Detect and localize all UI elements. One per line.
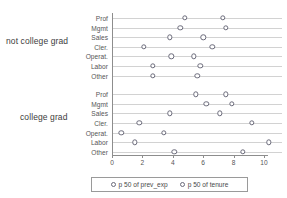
row-gridline [112,104,282,105]
data-point-marker [240,149,245,154]
y-axis-label-mgmt: Mgmt [64,100,108,107]
x-axis-tick-label: 4 [171,159,175,166]
data-point-marker [229,101,234,106]
x-axis-tick [142,155,143,158]
y-axis-label-other: Other [64,148,108,155]
legend-label-prev-exp: p 50 of prev_exp [119,181,168,188]
x-axis-tick-label: 6 [201,159,205,166]
data-point-marker [118,130,123,135]
x-axis-tick-label: 2 [141,159,145,166]
y-axis-label-other: Other [64,72,108,79]
data-point-marker [167,111,172,116]
row-gridline [112,142,282,143]
y-axis-label-operat: Operat. [64,53,108,60]
x-axis-tick-label: 10 [260,159,267,166]
data-point-marker [197,63,202,68]
y-axis-label-prof: Prof [64,91,108,98]
data-point-marker [266,139,271,144]
data-point-marker [223,25,228,30]
data-point-marker [193,91,198,96]
y-axis-category-labels: ProfMgmtSalesCler.Operat.LaborOtherProfM… [60,0,108,198]
data-point-marker [191,54,196,59]
data-point-marker [141,44,146,49]
row-gridline [112,56,282,57]
data-point-marker [150,73,155,78]
y-axis-line [112,13,113,155]
x-axis-tick [173,155,174,158]
data-point-marker [249,120,254,125]
row-gridline [112,133,282,134]
row-gridline [112,18,282,19]
data-point-marker [182,15,187,20]
legend-entry-prev-exp[interactable]: p 50 of prev_exp [111,181,168,188]
y-axis-label-operat: Operat. [64,129,108,136]
data-point-marker [200,34,205,39]
y-axis-label-sales: Sales [64,110,108,117]
x-axis-tick [203,155,204,158]
y-axis-label-cler: Cler. [64,120,108,127]
data-point-marker [194,73,199,78]
row-gridline [112,113,282,114]
data-point-marker [217,111,222,116]
row-gridline [112,37,282,38]
data-point-marker [137,120,142,125]
x-axis-tick [264,155,265,158]
data-point-marker [172,149,177,154]
legend-label-tenure: p 50 of tenure [188,181,229,188]
x-axis-line [112,155,268,156]
row-gridline [112,28,282,29]
data-point-marker [167,34,172,39]
open-circle-icon [111,182,116,187]
group-label-not-college-grad: not college grad [6,36,68,46]
row-gridline [112,47,282,48]
data-point-marker [161,130,166,135]
y-axis-label-labor: Labor [64,63,108,70]
data-point-marker [210,44,215,49]
row-gridline [112,152,282,153]
plot-area [112,14,282,152]
x-axis-tick-label: 8 [232,159,236,166]
data-point-marker [204,101,209,106]
data-point-marker [220,15,225,20]
legend-entry-tenure[interactable]: p 50 of tenure [180,181,229,188]
x-axis-tick [234,155,235,158]
x-axis-tick [112,155,113,158]
x-axis-tick-label: 0 [110,159,114,166]
data-point-marker [150,63,155,68]
y-axis-label-prof: Prof [64,15,108,22]
chart-legend: p 50 of prev_exp p 50 of tenure [91,177,248,192]
y-axis-label-labor: Labor [64,139,108,146]
data-point-marker [132,139,137,144]
y-axis-label-mgmt: Mgmt [64,24,108,31]
y-axis-label-sales: Sales [64,34,108,41]
y-axis-label-cler: Cler. [64,43,108,50]
data-point-marker [178,25,183,30]
open-circle-icon [180,182,185,187]
data-point-marker [223,91,228,96]
data-point-marker [169,54,174,59]
scatter-chart: not college grad college grad ProfMgmtSa… [0,0,287,198]
